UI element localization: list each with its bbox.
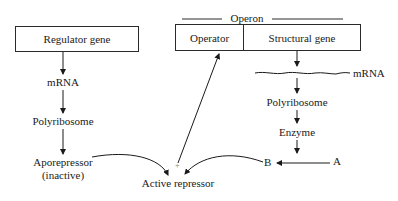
operator-box: Operator	[175, 24, 244, 51]
arrow-active-to-operator	[178, 54, 219, 163]
operator-label: Operator	[190, 32, 229, 44]
aporepressor-state-label: (inactive)	[42, 170, 84, 181]
substrate-a-label: A	[333, 156, 341, 167]
structural-gene-label: Structural gene	[269, 32, 336, 44]
operon-title: Operon	[231, 13, 264, 24]
regulator-polyribosome-label: Polyribosome	[32, 116, 93, 127]
operon-mrna-label: mRNA	[353, 68, 385, 79]
arrow-aporepressor-to-active	[92, 154, 168, 175]
arrow-b-to-active	[185, 156, 263, 174]
mrna-wavy-strand	[255, 72, 350, 74]
product-b-label: B	[264, 157, 271, 168]
regulator-gene-box: Regulator gene	[15, 26, 139, 52]
active-repressor-label: Active repressor	[142, 178, 214, 189]
structural-gene-box: Structural gene	[243, 24, 361, 51]
plus-sign: +	[175, 162, 180, 170]
regulator-mrna-label: mRNA	[47, 77, 79, 88]
regulator-gene-label: Regulator gene	[44, 33, 111, 45]
enzyme-label: Enzyme	[279, 127, 315, 138]
operon-polyribosome-label: Polyribosome	[266, 97, 327, 108]
aporepressor-label: Aporepressor	[33, 157, 92, 168]
